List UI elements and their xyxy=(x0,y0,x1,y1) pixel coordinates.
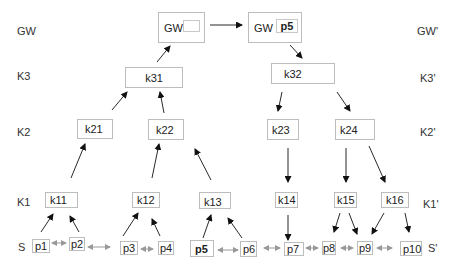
level-label-s-prime: S' xyxy=(428,242,437,254)
peer-p5[interactable]: p5 xyxy=(190,240,214,257)
node-k22[interactable]: k22 xyxy=(148,119,184,140)
peer-p7[interactable]: p7 xyxy=(284,242,304,256)
gateway-label: GW xyxy=(254,22,273,34)
level-label-k1: K1 xyxy=(17,196,30,208)
peer-p1[interactable]: p1 xyxy=(32,239,50,253)
peer-p6[interactable]: p6 xyxy=(240,241,257,257)
level-label-k2-prime: K2' xyxy=(420,126,436,138)
peer-p10[interactable]: p10 xyxy=(400,241,422,256)
gateway-node-right[interactable]: GW p5 xyxy=(248,12,302,43)
node-k24[interactable]: k24 xyxy=(335,119,375,140)
node-k21[interactable]: k21 xyxy=(77,119,113,139)
node-k32[interactable]: k32 xyxy=(271,63,335,84)
level-label-gw-prime: GW' xyxy=(417,25,438,37)
node-k13[interactable]: k13 xyxy=(199,192,231,209)
level-label-k2: K2 xyxy=(17,126,30,138)
gateway-slot-p5: p5 xyxy=(276,19,298,33)
diagram-canvas: GW K3 K2 K1 S GW' K3' K2' K1' S' GW GW p… xyxy=(0,0,452,271)
node-k15[interactable]: k15 xyxy=(334,192,357,208)
node-k12[interactable]: k12 xyxy=(132,192,160,208)
gateway-slot-empty xyxy=(183,20,200,32)
peer-p3[interactable]: p3 xyxy=(120,241,138,255)
peer-p9[interactable]: p9 xyxy=(357,241,373,255)
level-label-s: S xyxy=(18,241,25,253)
level-label-k3: K3 xyxy=(17,70,30,82)
node-k31[interactable]: k31 xyxy=(125,67,183,88)
peer-p2[interactable]: p2 xyxy=(69,237,85,251)
level-label-k1-prime: K1' xyxy=(423,198,439,210)
peer-p4[interactable]: p4 xyxy=(158,241,174,255)
node-k16[interactable]: k16 xyxy=(381,192,409,208)
node-k23[interactable]: k23 xyxy=(267,119,299,140)
edges-layer xyxy=(0,0,452,271)
peer-p8[interactable]: p8 xyxy=(322,241,336,255)
gateway-label: GW xyxy=(164,22,183,34)
node-k14[interactable]: k14 xyxy=(275,192,298,208)
node-k11[interactable]: k11 xyxy=(45,192,78,208)
level-label-gw: GW xyxy=(17,25,36,37)
level-label-k3-prime: K3' xyxy=(420,72,436,84)
gateway-node-left[interactable]: GW xyxy=(158,12,205,43)
